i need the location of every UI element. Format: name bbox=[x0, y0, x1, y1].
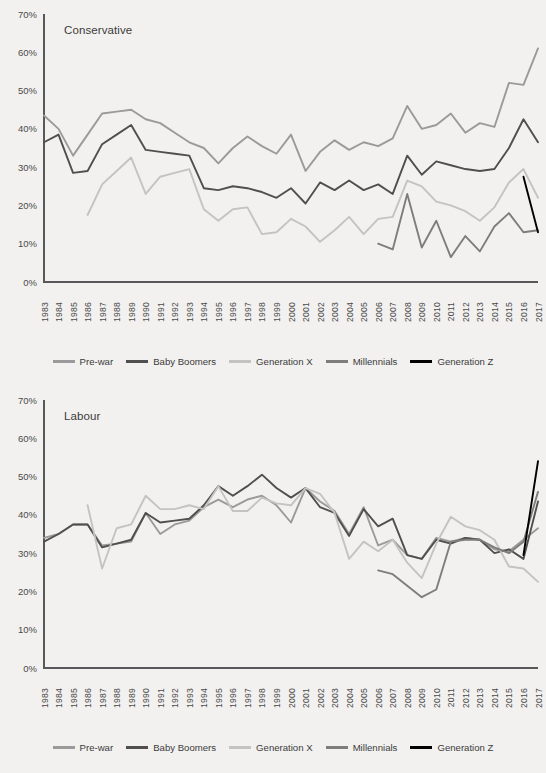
x-axis-tick-label: 1994 bbox=[199, 688, 209, 708]
y-axis-tick-label: 40% bbox=[18, 509, 38, 520]
y-axis-tick-label: 10% bbox=[18, 238, 38, 249]
legend-item-generation-z[interactable]: Generation Z bbox=[410, 742, 493, 753]
x-axis-tick-label: 2011 bbox=[446, 302, 456, 321]
x-axis-tick-label: 2012 bbox=[461, 688, 471, 708]
x-axis-tick-label: 1986 bbox=[83, 688, 93, 708]
x-axis-tick-label: 1992 bbox=[170, 302, 180, 322]
y-axis-tick-label: 70% bbox=[18, 9, 38, 20]
plot-svg: 0%10%20%30%40%50%60%70% bbox=[0, 386, 546, 686]
x-axis-tick-label: 1992 bbox=[170, 688, 180, 708]
x-axis-tick-label: 1993 bbox=[185, 688, 195, 708]
x-axis-tick-label: 1990 bbox=[141, 302, 151, 322]
x-axis-tick-label: 1994 bbox=[199, 302, 209, 322]
x-axis-tick-label: 2004 bbox=[345, 688, 355, 708]
x-axis-tick-label: 1986 bbox=[83, 302, 93, 322]
legend-swatch-icon bbox=[53, 746, 75, 749]
chart-legend: Pre-warBaby BoomersGeneration XMillennia… bbox=[0, 732, 546, 762]
x-axis-tick-label: 1984 bbox=[54, 688, 64, 708]
legend-swatch-icon bbox=[229, 746, 251, 749]
x-axis-tick-label: 2005 bbox=[359, 302, 369, 322]
x-axis-tick-label: 1990 bbox=[141, 688, 151, 708]
legend-label: Baby Boomers bbox=[153, 356, 216, 367]
x-axis-tick-label: 2004 bbox=[345, 302, 355, 322]
x-axis-tick-label: 2008 bbox=[403, 688, 413, 708]
plot-area: 0%10%20%30%40%50%60%70% bbox=[0, 386, 546, 686]
x-axis-tick-label: 1985 bbox=[69, 688, 79, 708]
x-axis-tick-label: 2002 bbox=[316, 302, 326, 322]
legend-label: Millennials bbox=[353, 356, 398, 367]
x-axis-tick-label: 2015 bbox=[504, 688, 514, 708]
x-axis-tick-label: 2014 bbox=[490, 302, 500, 322]
x-axis-tick-label: 2014 bbox=[490, 688, 500, 708]
legend-item-pre-war[interactable]: Pre-war bbox=[53, 356, 114, 367]
y-axis-tick-label: 60% bbox=[18, 433, 38, 444]
legend-swatch-icon bbox=[326, 360, 348, 363]
legend-swatch-icon bbox=[126, 360, 148, 363]
x-axis-tick-label: 2010 bbox=[432, 688, 442, 708]
chart-labour: Labour0%10%20%30%40%50%60%70%19831984198… bbox=[0, 386, 546, 772]
x-axis-tick-label: 1999 bbox=[272, 302, 282, 322]
y-axis-tick-label: 50% bbox=[18, 471, 38, 482]
chart-axes bbox=[44, 400, 538, 668]
x-axis-tick-label: 1997 bbox=[243, 302, 253, 322]
legend-item-pre-war[interactable]: Pre-war bbox=[53, 742, 114, 753]
legend-label: Pre-war bbox=[80, 742, 114, 753]
legend-swatch-icon bbox=[126, 746, 148, 749]
x-axis-tick-label: 1996 bbox=[228, 302, 238, 322]
legend-item-generation-x[interactable]: Generation X bbox=[229, 356, 313, 367]
x-axis-tick-label: 2003 bbox=[330, 688, 340, 708]
legend-item-generation-x[interactable]: Generation X bbox=[229, 742, 313, 753]
chart-axes bbox=[44, 14, 538, 282]
x-axis-labels: 1983198419851986198719881989199019911992… bbox=[0, 686, 546, 732]
legend-label: Generation X bbox=[256, 742, 313, 753]
x-axis-tick-label: 2013 bbox=[475, 302, 485, 322]
x-axis-tick-label: 2006 bbox=[374, 688, 384, 708]
legend-label: Generation X bbox=[256, 356, 313, 367]
x-axis-tick-label: 2013 bbox=[475, 688, 485, 708]
x-axis-tick-label: 2016 bbox=[519, 688, 529, 708]
chart-legend: Pre-warBaby BoomersGeneration XMillennia… bbox=[0, 346, 546, 376]
legend-item-generation-z[interactable]: Generation Z bbox=[410, 356, 493, 367]
y-axis-tick-label: 10% bbox=[18, 624, 38, 635]
legend-item-baby-boomers[interactable]: Baby Boomers bbox=[126, 356, 216, 367]
x-axis-tick-label: 2001 bbox=[301, 688, 311, 708]
y-axis-tick-label: 20% bbox=[18, 200, 38, 211]
x-axis-tick-label: 1998 bbox=[257, 688, 267, 708]
series-line-millennials bbox=[378, 194, 538, 257]
y-axis-tick-label: 20% bbox=[18, 586, 38, 597]
x-axis-tick-label: 2015 bbox=[504, 302, 514, 322]
x-axis-tick-label: 1984 bbox=[54, 302, 64, 322]
legend-item-millennials[interactable]: Millennials bbox=[326, 356, 398, 367]
y-axis-tick-label: 0% bbox=[23, 663, 37, 674]
x-axis-tick-label: 1998 bbox=[257, 302, 267, 322]
series-line-baby-boomers bbox=[44, 475, 538, 559]
x-axis-tick-label: 1999 bbox=[272, 688, 282, 708]
y-axis-tick-label: 30% bbox=[18, 548, 38, 559]
legend-item-baby-boomers[interactable]: Baby Boomers bbox=[126, 742, 216, 753]
y-axis-tick-label: 60% bbox=[18, 47, 38, 58]
x-axis-tick-label: 1989 bbox=[127, 688, 137, 708]
y-axis-tick-label: 0% bbox=[23, 277, 37, 288]
series-line-generation-x bbox=[88, 486, 538, 582]
x-axis-tick-label: 2002 bbox=[316, 688, 326, 708]
x-axis-tick-label: 1988 bbox=[112, 688, 122, 708]
plot-area: 0%10%20%30%40%50%60%70% bbox=[0, 0, 546, 300]
x-axis-tick-label: 2017 bbox=[534, 688, 544, 708]
x-axis-tick-label: 1988 bbox=[112, 302, 122, 322]
y-axis-tick-label: 40% bbox=[18, 123, 38, 134]
x-axis-tick-label: 2009 bbox=[417, 302, 427, 322]
x-axis-tick-label: 1983 bbox=[40, 302, 50, 322]
y-axis-tick-label: 30% bbox=[18, 162, 38, 173]
legend-swatch-icon bbox=[410, 360, 432, 363]
legend-swatch-icon bbox=[326, 746, 348, 749]
x-axis-tick-label: 1995 bbox=[214, 688, 224, 708]
x-axis-tick-label: 2017 bbox=[534, 302, 544, 322]
x-axis-labels: 1983198419851986198719881989199019911992… bbox=[0, 300, 546, 346]
y-axis-tick-label: 70% bbox=[18, 395, 38, 406]
x-axis-tick-label: 1996 bbox=[228, 688, 238, 708]
x-axis-tick-label: 2009 bbox=[417, 688, 427, 708]
x-axis-tick-label: 1997 bbox=[243, 688, 253, 708]
x-axis-tick-label: 2003 bbox=[330, 302, 340, 322]
x-axis-tick-label: 1991 bbox=[156, 688, 166, 708]
legend-item-millennials[interactable]: Millennials bbox=[326, 742, 398, 753]
